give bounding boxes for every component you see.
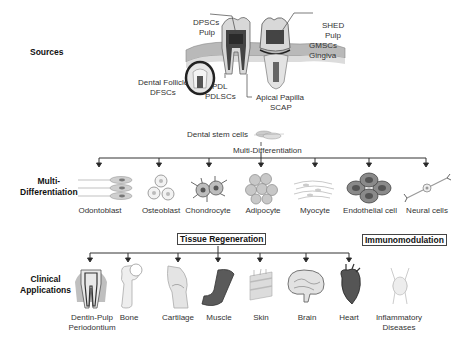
tissue-label-heart: Heart: [339, 313, 359, 323]
source-shed-label: SHED: [322, 21, 344, 31]
cell-label-myocyte: Myocyte: [300, 206, 330, 216]
osteoblast-icon: [143, 173, 183, 203]
tissue-label-bone: Bone: [120, 313, 139, 323]
disease-label-inflammatory: Inflammatory: [376, 313, 422, 323]
adipocyte-icon: [244, 172, 280, 204]
source-dfsc-label: Dental Follicle: [138, 78, 188, 88]
source-gmsc-tissue: Gingiva: [309, 51, 336, 61]
myocyte-icon: [292, 176, 336, 202]
cell-label-osteoblast: Osteoblast: [142, 206, 180, 216]
tissue-label-brain: Brain: [298, 313, 317, 323]
bone-icon: [114, 264, 144, 310]
endothelial-cell-icon: [344, 172, 394, 204]
disease-label-diseases: Diseases: [383, 323, 416, 333]
section-label-multi-differentiation: Multi- Differentiation: [20, 176, 78, 198]
tissue-label-cartilage: Cartilage: [162, 313, 194, 323]
brain-icon: [284, 266, 328, 306]
source-dpsc-label: DPSCs: [193, 18, 219, 28]
chondrocyte-icon: [187, 172, 231, 204]
source-dpsc-tissue: Pulp: [199, 28, 215, 38]
cell-label-chondrocyte: Chondrocyte: [185, 206, 230, 216]
cartilage-knee-icon: [162, 264, 192, 310]
cell-label-adipocyte: Adipocyte: [245, 206, 280, 216]
tissue-label-dentin-pulp: Dentin-Pulp: [71, 313, 113, 323]
odontoblast-icon: [76, 176, 136, 200]
inflamed-joint-icon: [385, 266, 415, 306]
heart-icon: [336, 264, 364, 306]
cell-label-neural-cells: Neural cells: [406, 206, 448, 216]
tissue-label-periodontium: Periodontium: [68, 323, 115, 333]
source-pdl-label: PDL: [212, 82, 228, 92]
cell-label-odontoblast: Odontoblast: [78, 206, 121, 216]
tissue-label-muscle: Muscle: [206, 313, 231, 323]
dentin-pulp-tooth-icon: [71, 264, 111, 310]
source-gmsc-label: GMSCs: [309, 41, 337, 51]
muscle-icon: [200, 268, 236, 308]
tissue-label-skin: Skin: [253, 313, 269, 323]
cell-label-endothelial-cell: Endothelial cell: [343, 206, 397, 216]
source-shed-tissue: Pulp: [325, 31, 341, 41]
neural-cell-icon: [403, 172, 453, 204]
source-scap-cells: SCAP: [270, 103, 292, 113]
source-dfsc-cells: DFSCs: [150, 88, 176, 98]
skin-icon: [246, 268, 276, 304]
source-pdlsc-cells: PDLSCs: [205, 92, 236, 102]
section-label-clinical-applications: Clinical Applications: [20, 274, 71, 296]
differentiation-tree: [0, 138, 470, 168]
source-scap-label: Apical Papilla: [256, 93, 304, 103]
